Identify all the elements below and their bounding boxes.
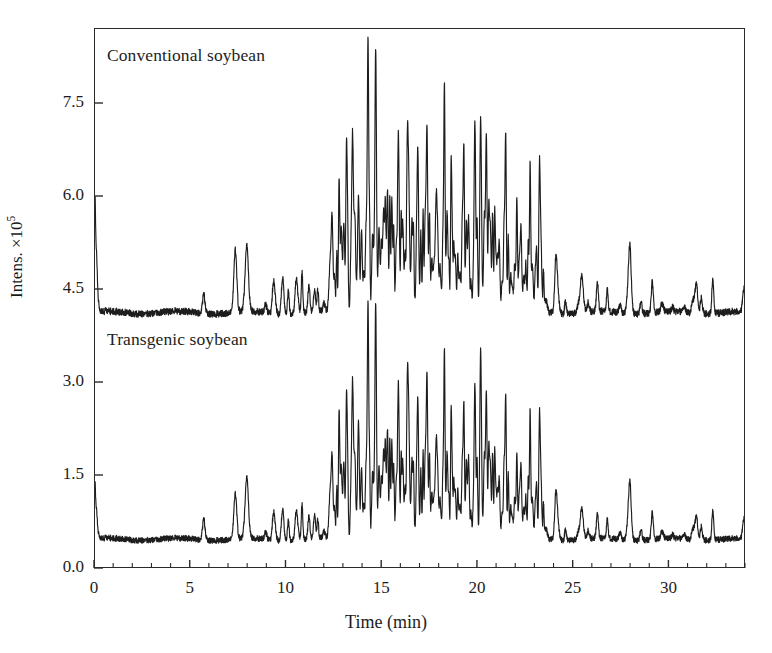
y-tick-label-3: 3.0: [32, 372, 84, 389]
y-tick-label-0: 0.0: [32, 558, 84, 575]
x-tick-label-25: 25: [553, 578, 593, 598]
x-tick-label-15: 15: [361, 578, 401, 598]
y-tick-label-6: 6.0: [32, 186, 84, 203]
x-tick-label-10: 10: [265, 578, 305, 598]
y-axis-title: Intens. ×105: [5, 167, 27, 347]
trace-group: [95, 37, 744, 543]
plot-canvas: [95, 29, 744, 567]
trace-conventional-soybean: [95, 37, 744, 317]
y-tick-label-7-5: 7.5: [32, 93, 84, 110]
chromatogram-figure: Intens. ×105 0.01.53.04.56.07.5 05101520…: [0, 0, 772, 653]
plot-frame: Conventional soybean Transgenic soybean: [94, 28, 745, 568]
series-label-transgenic-soybean: Transgenic soybean: [107, 329, 248, 350]
x-tick-label-20: 20: [457, 578, 497, 598]
x-axis-title: Time (min): [0, 612, 772, 633]
y-tick-label-1-5: 1.5: [32, 465, 84, 482]
series-label-conventional-soybean: Conventional soybean: [107, 45, 265, 66]
y-axis-title-exponent: 5: [5, 216, 17, 222]
y-axis-title-text: Intens. ×10: [7, 221, 26, 298]
x-tick-label-30: 30: [648, 578, 688, 598]
y-tick-label-4-5: 4.5: [32, 279, 84, 296]
x-tick-label-0: 0: [74, 578, 114, 598]
x-tick-label-5: 5: [170, 578, 210, 598]
